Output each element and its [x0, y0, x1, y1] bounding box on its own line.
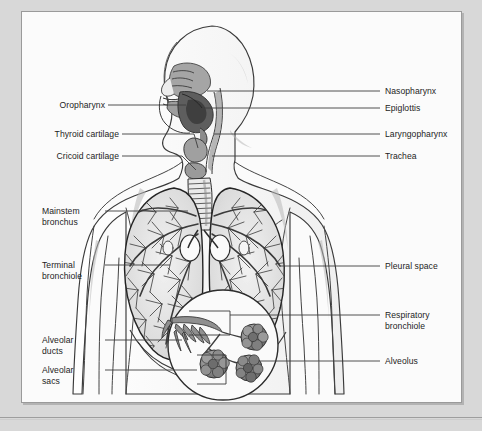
figure-panel: Oropharynx Thyroid cartilage Cricoid car…: [21, 11, 462, 403]
label-respiratory-bronchiole-line2: bronchiole: [385, 321, 430, 332]
label-nasopharynx: Nasopharynx: [385, 86, 436, 97]
label-cricoid-cartilage: Cricoid cartilage: [22, 151, 119, 162]
label-mainstem-bronchus: Mainstem bronchus: [42, 206, 80, 228]
label-terminal-bronchiole-line2: bronchiole: [42, 271, 82, 282]
label-thyroid-cartilage: Thyroid cartilage: [22, 129, 119, 140]
label-trachea-text: Trachea: [385, 151, 417, 161]
label-alveolar-ducts-line1: Alveolar: [42, 335, 73, 346]
label-laryngopharynx: Laryngopharynx: [385, 129, 447, 140]
label-pleural-space: Pleural space: [385, 261, 438, 272]
page-horizontal-rule-secondary: [0, 419, 482, 420]
label-thyroid-cartilage-text: Thyroid cartilage: [55, 129, 119, 139]
label-alveolar-sacs-line2: sacs: [42, 376, 73, 387]
label-oropharynx-text: Oropharynx: [60, 100, 105, 110]
label-laryngopharynx-text: Laryngopharynx: [385, 129, 447, 139]
label-respiratory-bronchiole: Respiratory bronchiole: [385, 310, 430, 332]
label-nasopharynx-text: Nasopharynx: [385, 86, 436, 96]
label-cricoid-cartilage-text: Cricoid cartilage: [57, 151, 119, 161]
page-horizontal-rule: [0, 417, 482, 418]
label-respiratory-bronchiole-line1: Respiratory: [385, 310, 430, 321]
label-alveolus-text: Alveolus: [385, 356, 418, 366]
label-alveolar-ducts: Alveolar ducts: [42, 335, 73, 357]
label-pleural-space-text: Pleural space: [385, 261, 438, 271]
label-oropharynx: Oropharynx: [22, 100, 105, 111]
label-trachea: Trachea: [385, 151, 417, 162]
label-terminal-bronchiole-line1: Terminal: [42, 260, 82, 271]
label-alveolar-sacs-line1: Alveolar: [42, 365, 73, 376]
label-mainstem-bronchus-line1: Mainstem: [42, 206, 80, 217]
label-mainstem-bronchus-line2: bronchus: [42, 217, 80, 228]
label-terminal-bronchiole: Terminal bronchiole: [42, 260, 82, 282]
respiratory-system-illustration: [22, 12, 462, 403]
label-epiglottis-text: Epiglottis: [385, 103, 420, 113]
label-alveolar-sacs: Alveolar sacs: [42, 365, 73, 387]
label-alveolus: Alveolus: [385, 356, 418, 367]
label-alveolar-ducts-line2: ducts: [42, 346, 73, 357]
page-background: SYSTEM: [0, 0, 482, 431]
label-epiglottis: Epiglottis: [385, 103, 420, 114]
